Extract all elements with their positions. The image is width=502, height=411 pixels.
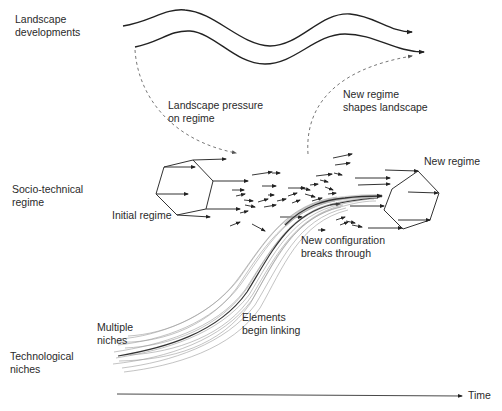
annotation-new-regime: New regime [424,155,480,168]
annotation-line: breaks through [301,247,385,260]
level-label-landscape: Landscape developments [15,13,80,38]
niche-strands [113,196,376,372]
landscape-wave-lower [135,31,424,64]
landscape-wave-upper [123,10,412,46]
annotation-line: Multiple [97,321,133,334]
level-label-line: Landscape [15,13,80,26]
level-label-line: regime [12,196,83,209]
annotation-new-regime-shapes-landscape: New regime shapes landscape [343,88,428,113]
level-label-line: Socio-technical [12,183,83,196]
annotation-breaks-through: New configuration breaks through [301,234,385,259]
annotation-line: New regime [343,88,428,101]
annotation-line: Landscape pressure [168,99,263,112]
annotation-elements-linking: Elements begin linking [242,311,300,336]
time-axis-label: Time [468,389,491,402]
level-label-line: Technological [10,350,74,363]
annotation-line: shapes landscape [343,101,428,114]
annotation-line: on regime [168,112,263,125]
annotation-multiple-niches: Multiple niches [97,321,133,346]
time-axis [117,394,462,396]
level-label-line: developments [15,26,80,39]
annotation-line: niches [97,334,133,347]
regime-turbulence-arrows [230,154,362,231]
annotation-landscape-pressure: Landscape pressure on regime [168,99,263,124]
annotation-line: New configuration [301,234,385,247]
level-label-niches: Technological niches [10,350,74,375]
landscape-waves [123,10,424,64]
level-label-regime: Socio-technical regime [12,183,83,208]
annotation-line: Elements [242,311,300,324]
level-label-line: niches [10,363,74,376]
annotation-line: begin linking [242,324,300,337]
annotation-initial-regime: Initial regime [112,209,172,222]
